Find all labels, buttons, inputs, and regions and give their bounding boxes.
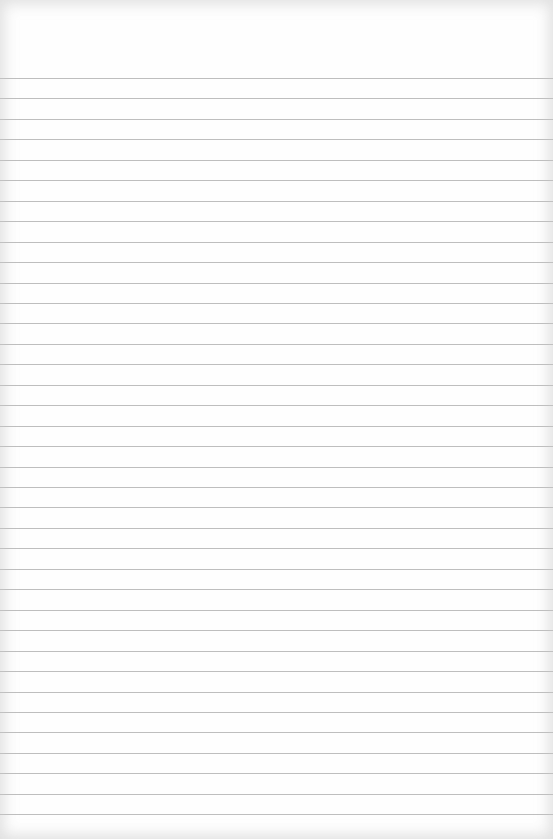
ruled-line: [0, 814, 553, 815]
ruled-line: [0, 589, 553, 590]
ruled-line: [0, 323, 553, 324]
ruled-lines: [0, 0, 553, 839]
ruled-line: [0, 773, 553, 774]
ruled-line: [0, 139, 553, 140]
ruled-line: [0, 548, 553, 549]
ruled-line: [0, 303, 553, 304]
ruled-line: [0, 262, 553, 263]
ruled-line: [0, 794, 553, 795]
ruled-line: [0, 651, 553, 652]
ruled-line: [0, 671, 553, 672]
ruled-line: [0, 426, 553, 427]
ruled-line: [0, 78, 553, 79]
ruled-line: [0, 446, 553, 447]
ruled-line: [0, 692, 553, 693]
lined-paper-sheet: [0, 0, 553, 839]
ruled-line: [0, 180, 553, 181]
ruled-line: [0, 385, 553, 386]
ruled-line: [0, 528, 553, 529]
ruled-line: [0, 98, 553, 99]
ruled-line: [0, 487, 553, 488]
ruled-line: [0, 283, 553, 284]
ruled-line: [0, 753, 553, 754]
ruled-line: [0, 507, 553, 508]
ruled-line: [0, 160, 553, 161]
ruled-line: [0, 201, 553, 202]
ruled-line: [0, 467, 553, 468]
ruled-line: [0, 732, 553, 733]
ruled-line: [0, 221, 553, 222]
ruled-line: [0, 242, 553, 243]
ruled-line: [0, 119, 553, 120]
ruled-line: [0, 569, 553, 570]
ruled-line: [0, 610, 553, 611]
ruled-line: [0, 630, 553, 631]
ruled-line: [0, 712, 553, 713]
ruled-line: [0, 344, 553, 345]
ruled-line: [0, 405, 553, 406]
ruled-line: [0, 364, 553, 365]
